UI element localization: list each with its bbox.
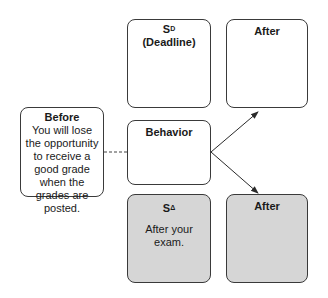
after-bottom-box: After <box>226 194 308 283</box>
behavior-title: Behavior <box>128 126 210 139</box>
before-box: Before You will lose the opportunity to … <box>20 107 104 197</box>
before-text: You will lose the opportunity to receive… <box>21 124 103 215</box>
sdelta-superscript: Δ <box>170 204 175 211</box>
arrow-to-after-top <box>211 112 258 152</box>
sd-superscript: D <box>170 25 175 32</box>
sdelta-box: SΔ After your exam. <box>127 194 211 283</box>
sd-label: (Deadline) <box>128 36 210 49</box>
sdelta-title: SΔ <box>128 202 210 215</box>
sdelta-text: After your exam. <box>128 223 210 249</box>
behavior-box: Behavior <box>127 120 211 185</box>
after-top-box: After <box>226 19 308 108</box>
after-top-title: After <box>227 25 307 38</box>
before-title: Before <box>21 111 103 124</box>
sd-box: SD (Deadline) <box>127 19 211 108</box>
after-bottom-title: After <box>227 200 307 213</box>
sd-title: SD <box>128 23 210 36</box>
arrow-to-after-bottom <box>211 152 258 193</box>
